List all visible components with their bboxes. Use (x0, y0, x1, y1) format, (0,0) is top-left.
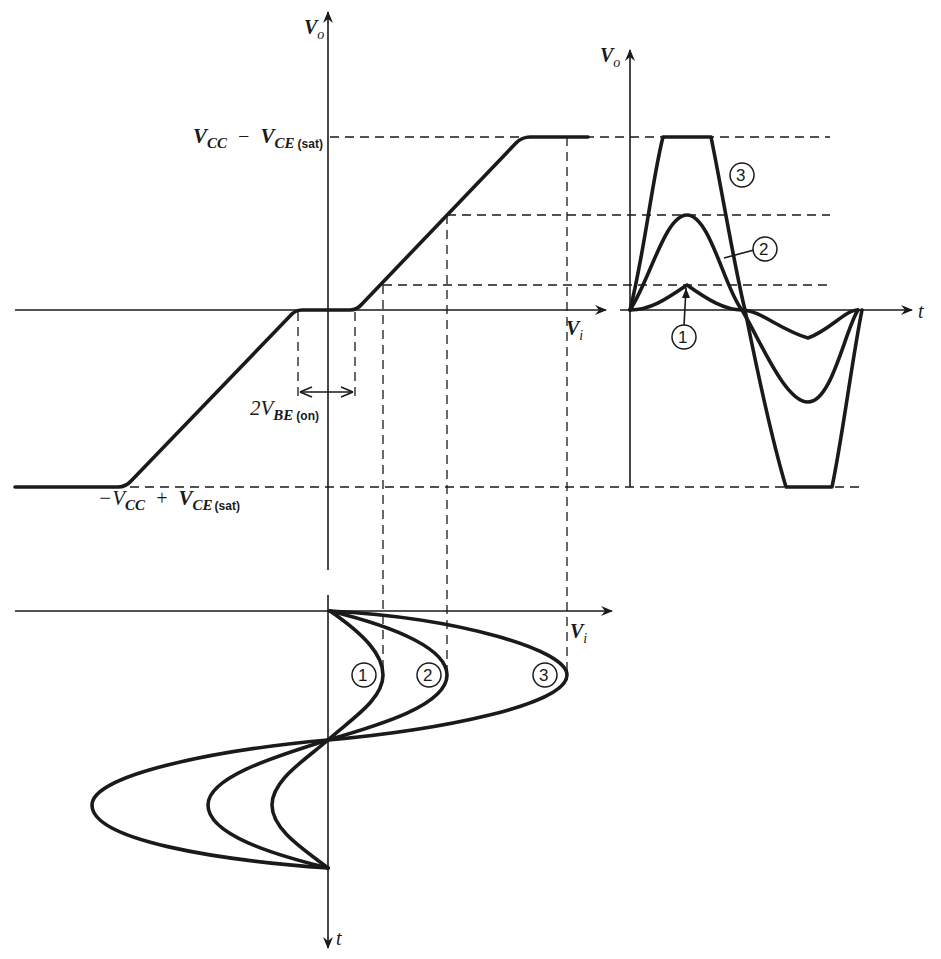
input-plot: Vi t 1 2 3 (15, 595, 612, 949)
output-callout-1: 1 (672, 288, 696, 349)
input-vi-label: Vi (570, 620, 587, 646)
output-vo-label: Vo (600, 44, 620, 70)
input-callout-1: 1 (352, 663, 376, 687)
class-b-transfer-diagram: Vo Vi VCC−VCE(sat) −VCC+VCE(sat) 2VBE(on… (0, 0, 941, 959)
svg-text:1: 1 (358, 666, 367, 685)
transfer-vi-label: Vi (566, 317, 583, 343)
input-t-label: t (336, 927, 342, 949)
output-curve-3 (630, 137, 862, 487)
transfer-curve (15, 137, 588, 487)
svg-text:2: 2 (423, 666, 432, 685)
input-curve-3 (92, 611, 567, 868)
input-callout-3: 3 (533, 663, 557, 687)
output-t-label: t (918, 300, 924, 322)
input-callout-2: 2 (417, 663, 441, 687)
svg-text:2: 2 (759, 240, 768, 259)
output-plot: Vo t 3 2 1 (600, 44, 924, 487)
upper-limit-label: VCC−VCE(sat) (193, 124, 323, 151)
deadband-label: 2VBE(on) (250, 396, 319, 423)
lower-limit-label: −VCC+VCE(sat) (98, 486, 240, 513)
output-callout-3: 3 (730, 163, 754, 187)
transfer-vo-label: Vo (304, 16, 324, 42)
svg-text:3: 3 (736, 166, 745, 185)
svg-text:3: 3 (539, 666, 548, 685)
transfer-plot: Vo Vi VCC−VCE(sat) −VCC+VCE(sat) 2VBE(on… (15, 12, 860, 680)
svg-text:1: 1 (678, 328, 687, 347)
